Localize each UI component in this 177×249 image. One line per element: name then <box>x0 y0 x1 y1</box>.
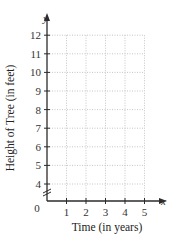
y-axis-title: Height of Tree (in feet) <box>4 64 17 171</box>
x-tick-label: 5 <box>142 206 148 218</box>
y-axis-variable-label: y <box>42 12 48 24</box>
grid-lines <box>47 35 145 201</box>
axes <box>43 13 167 204</box>
origin-label: 0 <box>34 202 40 214</box>
y-tick-label: 8 <box>36 104 42 116</box>
y-tick-label: 6 <box>36 141 42 153</box>
x-tick-label: 2 <box>83 206 89 218</box>
chart: 12345 456789101112 y x 0 Time (in years)… <box>0 0 177 249</box>
y-tick-label: 5 <box>36 159 42 171</box>
y-tick-label: 9 <box>36 85 42 97</box>
y-tick-label: 10 <box>30 66 42 78</box>
y-tick-label: 11 <box>30 48 41 60</box>
x-tick-label: 3 <box>103 206 109 218</box>
x-tick-label: 1 <box>64 206 70 218</box>
y-tick-label: 7 <box>36 122 42 134</box>
x-tick-label: 4 <box>122 206 128 218</box>
x-axis-title: Time (in years) <box>72 221 143 234</box>
x-axis-variable-label: x <box>160 195 166 207</box>
y-tick-label: 12 <box>30 29 41 41</box>
y-tick-label: 4 <box>36 178 42 190</box>
y-axis-ticks: 456789101112 <box>30 29 50 190</box>
